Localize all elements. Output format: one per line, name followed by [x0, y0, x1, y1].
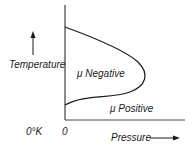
temperature-arrow-icon	[31, 31, 36, 55]
pressure-arrow-icon	[150, 136, 180, 141]
temperature-label: Temperature	[9, 59, 65, 70]
inversion-curve	[65, 27, 145, 105]
mu-negative-label: μ Negative	[77, 68, 125, 79]
zero-kelvin-label: 0°K	[26, 126, 42, 137]
mu-positive-label: μ Positive	[110, 103, 153, 114]
zero-pressure-label: 0	[62, 126, 68, 137]
pressure-label: Pressure	[111, 132, 151, 143]
